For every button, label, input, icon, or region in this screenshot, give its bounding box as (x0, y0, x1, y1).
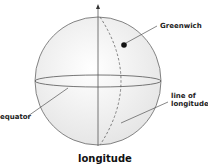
diagram-title: longitude (78, 153, 132, 164)
line-of-longitude-label-2: longitude (171, 100, 208, 108)
greenwich-label: Greenwich (160, 22, 202, 30)
equator-label: equator (0, 113, 31, 121)
line-of-longitude-label-1: line of (171, 92, 196, 100)
axis-arrow-icon (96, 4, 100, 9)
greenwich-dot (121, 42, 127, 48)
